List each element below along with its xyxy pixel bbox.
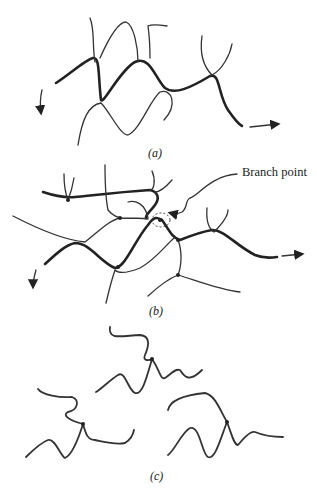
panel-c-diagram: [26, 327, 283, 458]
branched-molecule-3: [168, 393, 283, 457]
main-chain-a: [56, 58, 242, 126]
panel-c-caption: (c): [150, 469, 163, 484]
panel-b-caption: (b): [149, 304, 163, 319]
branch-point-pointer: [170, 174, 237, 214]
chain-a-3: [148, 25, 167, 58]
chain-a-5: [201, 36, 232, 75]
chain-end-arrow-left: [40, 90, 42, 113]
chain-a-4: [78, 91, 172, 145]
branch-dots-c: [81, 357, 229, 426]
branched-molecule-1: [96, 327, 202, 393]
diagram-canvas: [0, 0, 317, 495]
panel-a-caption: (a): [148, 146, 162, 161]
chain-end-arrow-left-b: [33, 270, 36, 287]
branch-point-label: Branch point: [242, 165, 307, 180]
chain-end-arrow-right: [250, 124, 278, 127]
chain-a-2: [90, 18, 138, 62]
branched-molecule-2: [26, 389, 134, 458]
panel-b-diagram: [13, 165, 302, 303]
crosslink-dots: [66, 198, 180, 277]
main-chain-b: [45, 218, 277, 268]
chain-end-arrow-right-b: [282, 254, 302, 256]
panel-a-diagram: [40, 18, 278, 145]
